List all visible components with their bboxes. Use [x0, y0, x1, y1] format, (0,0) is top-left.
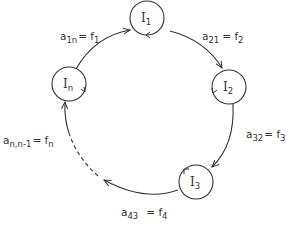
edge-prev-In-solid — [65, 102, 70, 136]
edge-label-a1n: a1n= f1 — [60, 30, 100, 45]
node-label-I1: I1 — [141, 11, 151, 27]
edge-label-a21: a21= f2 — [202, 30, 244, 45]
node-label-I3: I3 — [190, 175, 200, 191]
node-label-In: In — [63, 77, 73, 93]
edge-label-ann-1: an,n-1= fn — [3, 134, 54, 149]
node-label-I2: I2 — [223, 80, 233, 96]
node-In: In — [52, 67, 86, 101]
node-I3: I3 — [179, 165, 213, 199]
edge-label-a43: a43= f4 — [121, 206, 168, 221]
cycle-diagram: I1 I2 I3 In a1n= f1 a21= f2 a32= f3 a43=… — [0, 0, 293, 231]
node-I1: I1 — [130, 1, 164, 38]
edge-label-a32: a32= f3 — [246, 128, 286, 143]
edge-I2-I3 — [212, 104, 233, 167]
self-loop-arrow-icon — [81, 87, 85, 92]
node-I2: I2 — [212, 70, 246, 104]
edge-I3-next — [104, 180, 178, 194]
self-loop-arrow-icon — [212, 88, 217, 93]
edge-prev-In-dashed — [70, 136, 98, 176]
